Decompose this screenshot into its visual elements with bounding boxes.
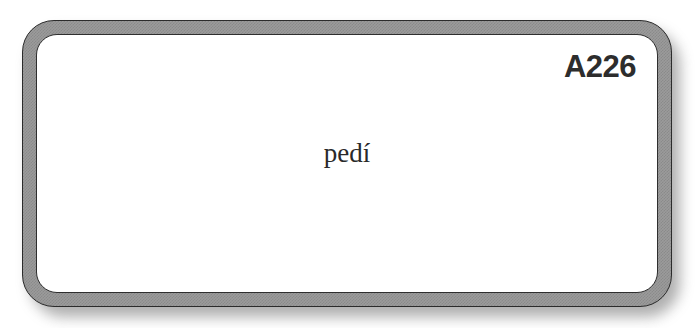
card-frame-border: A226 pedí <box>22 20 672 307</box>
card-word-container: pedí <box>37 35 657 292</box>
card-word-text: pedí <box>324 140 371 167</box>
flashcard-scene: A226 pedí <box>0 0 696 328</box>
card-face: A226 pedí <box>36 34 658 293</box>
